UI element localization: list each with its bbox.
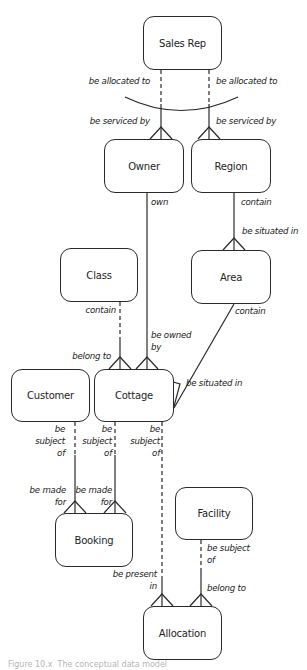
label-cottage-situated-in: be situated in <box>186 377 242 389</box>
label-cottage-subject-of-booking: be subject of <box>82 423 112 459</box>
entity-owner: Owner <box>104 139 184 193</box>
label-cottage-owned-by: be owned by <box>151 329 191 353</box>
entity-area: Area <box>191 250 271 304</box>
entity-facility: Facility <box>175 487 253 540</box>
entity-region: Region <box>191 139 271 193</box>
label-region-contain: contain <box>241 196 272 208</box>
label-owner-serviced-by: be serviced by <box>90 115 150 127</box>
entity-class: Class <box>60 248 138 302</box>
label-owner-own: own <box>151 196 168 208</box>
label-sales-rep-region-allocated: be allocated to <box>216 75 277 87</box>
entity-sales-rep: Sales Rep <box>143 16 222 70</box>
label-region-serviced-by: be serviced by <box>216 115 276 127</box>
label-customer-subject-of: be subject of <box>35 423 65 459</box>
cottage-area-crows-foot <box>173 382 180 410</box>
label-cottage-belong-to: belong to <box>72 350 111 362</box>
exclusive-arc <box>125 97 238 111</box>
label-facility-subject-of: be subject of <box>207 542 250 566</box>
figure-caption: Figure 10.x The conceptual data model <box>8 660 167 669</box>
label-area-contain: contain <box>235 305 266 317</box>
label-area-situated-in: be situated in <box>242 225 298 237</box>
label-booking-made-for-customer: be made for <box>30 484 66 508</box>
label-booking-made-for-cottage: be made for <box>76 484 112 508</box>
label-class-contain: contain <box>86 304 117 316</box>
label-cottage-subject-of-allocation: be subject of <box>130 423 160 459</box>
entity-booking: Booking <box>55 513 133 567</box>
area-cottage-line <box>174 304 234 408</box>
label-allocation-present-in: be present in <box>113 568 157 592</box>
entity-customer: Customer <box>11 369 90 422</box>
label-sales-rep-owner-allocated: be allocated to <box>89 75 150 87</box>
entity-cottage: Cottage <box>94 369 174 422</box>
label-allocation-belong-to: belong to <box>207 582 246 594</box>
entity-allocation: Allocation <box>143 606 222 660</box>
